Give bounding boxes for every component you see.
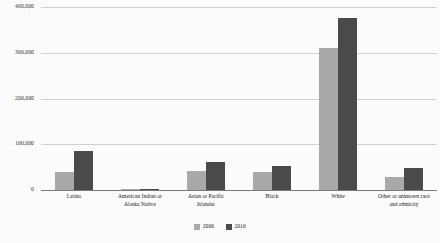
axis-baseline [41, 190, 437, 191]
bar-group [305, 7, 371, 190]
legend-label: 2016 [235, 224, 246, 230]
bar-group [371, 7, 437, 190]
x-axis-tick-label: Other or unknown raceand ethnicity [362, 193, 440, 208]
legend-item-2006[interactable]: 2006 [194, 224, 214, 230]
bar-2016 [272, 166, 291, 190]
bar-group [173, 7, 239, 190]
legend-item-2016[interactable]: 2016 [226, 224, 246, 230]
bar-2006 [121, 189, 140, 190]
bar-2016 [338, 18, 357, 190]
bar-2016 [404, 168, 423, 190]
bar-group [107, 7, 173, 190]
y-axis-tick-label: 0 [0, 187, 34, 193]
y-axis-tick-label: 200,000 [0, 96, 34, 102]
legend-swatch-icon [226, 224, 232, 230]
x-axis-labels: LatinoAmerican Indian orAlaska NativeAsi… [41, 193, 437, 223]
bar-2006 [253, 172, 272, 190]
bar-chart: 400,000300,000200,000100,0000 LatinoAmer… [0, 0, 440, 243]
legend-label: 2006 [203, 224, 214, 230]
bars-layer [41, 7, 437, 190]
bar-2016 [206, 162, 225, 190]
bar-2016 [74, 151, 93, 190]
bar-2006 [187, 171, 206, 190]
bar-2006 [385, 177, 404, 190]
legend-swatch-icon [194, 224, 200, 230]
bar-2016 [140, 189, 159, 190]
y-axis-tick-label: 400,000 [0, 4, 34, 10]
bar-group [41, 7, 107, 190]
y-axis-tick-label: 100,000 [0, 141, 34, 147]
bar-group [239, 7, 305, 190]
bar-2006 [319, 48, 338, 190]
chart-legend: 20062016 [0, 224, 440, 230]
bar-2006 [55, 172, 74, 190]
y-axis-tick-label: 300,000 [0, 50, 34, 56]
